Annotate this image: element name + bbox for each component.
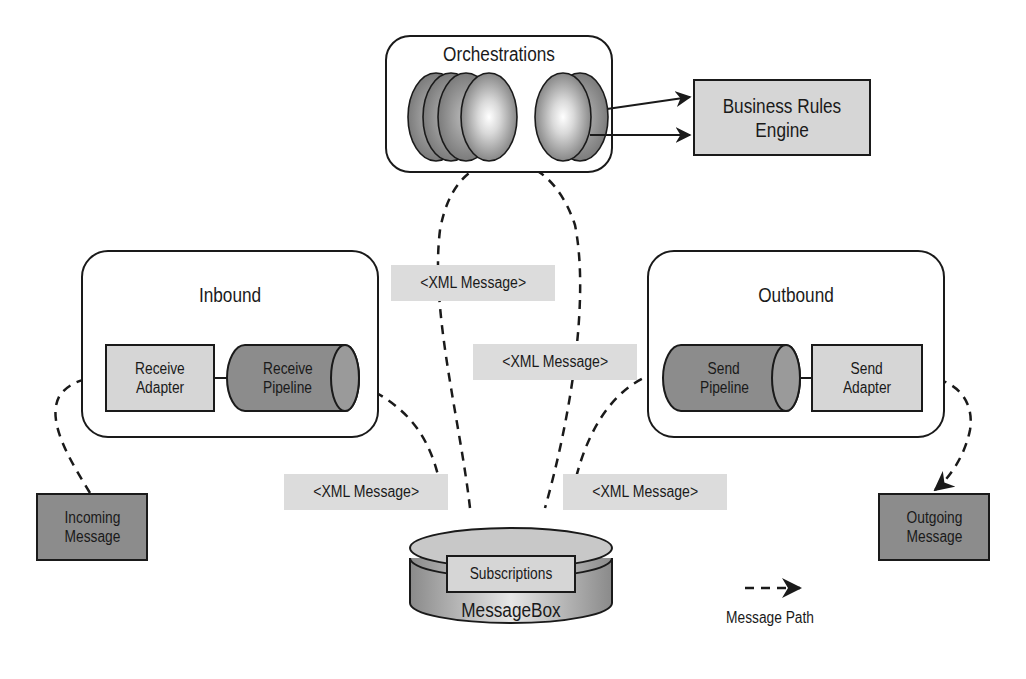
incoming-message-label: Incoming Message — [37, 494, 147, 560]
outgoing-line2: Message — [906, 527, 962, 546]
receive-adapter-line2: Adapter — [136, 378, 184, 397]
messagebox-label: MessageBox — [424, 598, 598, 622]
outbound-title: Outbound — [669, 283, 924, 307]
bre-line2: Engine — [755, 118, 809, 142]
receive-pipeline-line1: Receive — [263, 359, 313, 378]
send-adapter-label: Send Adapter — [812, 345, 922, 411]
orchestration-orbs-group-2 — [535, 73, 608, 161]
send-pipeline-line2: Pipeline — [700, 378, 749, 397]
outgoing-message-label: Outgoing Message — [879, 494, 989, 560]
subscriptions-label: Subscriptions — [456, 564, 566, 583]
xml-message-label-3: <XML Message> — [284, 474, 448, 510]
legend-message-path-label: Message Path — [710, 608, 830, 627]
incoming-line1: Incoming — [64, 508, 120, 527]
xml-message-label-2: <XML Message> — [473, 344, 637, 380]
receive-pipeline-line2: Pipeline — [263, 378, 312, 397]
business-rules-engine-label: Business Rules Engine — [694, 80, 870, 155]
receive-adapter-label: Receive Adapter — [106, 345, 214, 411]
inbound-title: Inbound — [103, 283, 358, 307]
send-adapter-line1: Send — [851, 359, 883, 378]
send-adapter-line2: Adapter — [843, 378, 891, 397]
xml-message-label-4: <XML Message> — [563, 474, 727, 510]
send-pipeline-label: Send Pipeline — [670, 345, 778, 411]
incoming-line2: Message — [64, 527, 120, 546]
orchestrations-title: Orchestrations — [402, 42, 596, 66]
xml-message-label-1: <XML Message> — [391, 265, 555, 301]
receive-adapter-line1: Receive — [135, 359, 185, 378]
orchestration-orbs-group-1 — [408, 73, 517, 161]
receive-pipeline-label: Receive Pipeline — [235, 345, 340, 411]
send-pipeline-line1: Send — [708, 359, 740, 378]
bre-line1: Business Rules — [723, 94, 842, 118]
outgoing-line1: Outgoing — [906, 508, 962, 527]
